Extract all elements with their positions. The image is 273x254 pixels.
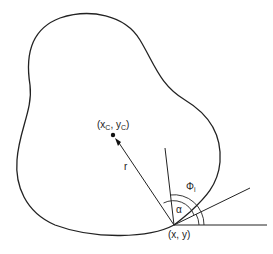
alpha-label: α xyxy=(176,204,182,215)
point-label: (x, y) xyxy=(168,229,190,240)
phi-label: Φi xyxy=(186,181,196,193)
diagram-canvas: (xC, yC) r (x, y) α Φi xyxy=(0,0,273,254)
radius-label: r xyxy=(124,161,128,172)
tangent-line xyxy=(174,188,250,225)
phi-arc-inner xyxy=(196,214,199,225)
center-label: (xC, yC) xyxy=(97,119,129,131)
center-point xyxy=(111,133,115,137)
